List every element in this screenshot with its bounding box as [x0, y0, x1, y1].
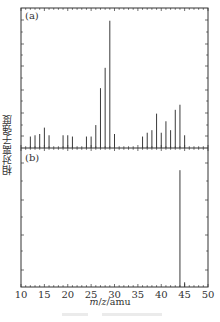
- panel-b-bars: [180, 170, 185, 287]
- x-axis-label-unit: /amu: [107, 296, 131, 307]
- panel-a-bars: [30, 21, 184, 148]
- figure-caption-faint: [52, 313, 172, 316]
- x-axis-label: m/z/amu: [0, 296, 220, 307]
- mass-spectrum-figure: 101520253035404550 (a) (b) 相对离子强度 m/z/am…: [0, 0, 220, 322]
- y-axis-label: 相对离子强度: [1, 100, 15, 190]
- panel-b-label: (b): [25, 152, 39, 163]
- plot-area: 101520253035404550 (a) (b): [0, 0, 220, 322]
- panel-a-label: (a): [25, 10, 39, 21]
